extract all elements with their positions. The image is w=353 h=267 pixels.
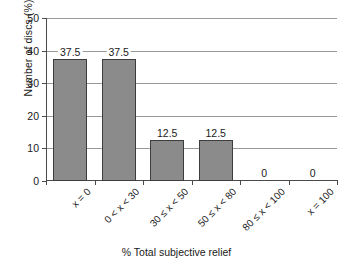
gridline [46,116,337,117]
bar-value-label: 0 [259,167,269,179]
gridline [46,148,337,149]
x-category-label-anchor: x = 100 [327,186,328,187]
x-category-label-anchor: x = 0 [84,186,85,187]
x-category-label-anchor: 80 ≤ x < 100 [278,186,279,187]
bar-chart: Number of discs (%) 01020304050 37.537.5… [0,0,353,267]
x-category-label: 50 ≤ x < 80 [196,186,239,229]
y-tick-label: 10 [27,142,39,154]
bar-value-label: 37.5 [107,46,131,58]
x-tick-mark [337,180,338,185]
x-tick-mark [192,180,193,185]
bar: 12.5 [199,140,233,181]
gridline [46,83,337,84]
gridline [46,18,337,19]
x-category-label: x = 100 [304,186,335,217]
x-category-label: 80 ≤ x < 100 [240,186,287,233]
x-tick-mark [143,180,144,185]
bar-value-label: 37.5 [58,46,82,58]
x-category-label: x = 0 [70,186,93,209]
bar-value-label: 12.5 [204,127,228,139]
y-tick-label: 50 [27,12,39,24]
x-tick-mark [289,180,290,185]
y-tick-label: 20 [27,110,39,122]
bar-value-label: 12.5 [155,127,179,139]
gridline [46,51,337,52]
x-category-label: 30 ≤ x < 50 [147,186,190,229]
x-tick-mark [240,180,241,185]
bar: 12.5 [150,140,184,181]
x-tick-mark [95,180,96,185]
y-tick-label: 30 [27,77,39,89]
x-category-label-anchor: 30 ≤ x < 50 [181,186,182,187]
y-axis-line [46,18,47,181]
y-tick-label: 40 [27,45,39,57]
plot-area: 01020304050 37.537.512.512.500 [46,18,337,181]
bar-value-label: 0 [308,167,318,179]
bar: 37.5 [102,59,136,181]
x-axis-title: % Total subjective relief [0,246,353,258]
bar: 37.5 [53,59,87,181]
x-category-label-anchor: 50 ≤ x < 80 [230,186,231,187]
x-category-label: 0 < x < 30 [102,186,141,225]
x-category-label-anchor: 0 < x < 30 [133,186,134,187]
y-tick-label: 0 [33,175,39,187]
x-tick-mark [46,180,47,185]
